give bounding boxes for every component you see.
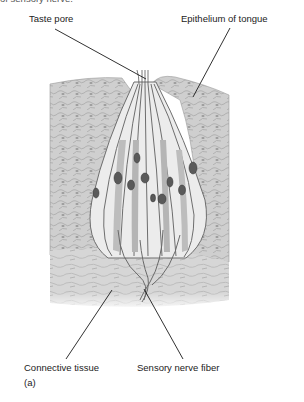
label-taste-pore: Taste pore (29, 13, 73, 24)
panel-label: (a) (24, 377, 36, 388)
label-epithelium: Epithelium of tongue (181, 13, 268, 24)
leader-epithelium (193, 28, 230, 97)
taste-bud-illustration (0, 0, 304, 402)
label-connective-tissue: Connective tissue (24, 362, 99, 373)
label-sensory-nerve-fiber: Sensory nerve fiber (137, 362, 219, 373)
leader-taste-pore (55, 29, 146, 79)
